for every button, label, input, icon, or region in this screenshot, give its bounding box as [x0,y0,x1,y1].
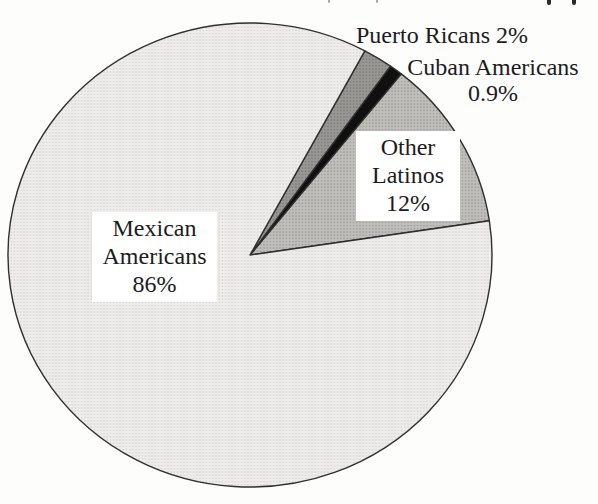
label-mexican-pct: 86% [98,270,211,298]
label-other-latinos: Other Latinos 12% [356,131,460,221]
label-mexican-americans: Mexican Americans 86% [92,212,217,302]
label-mexican-line1: Mexican [98,214,211,242]
label-other-line2: Latinos [362,161,454,189]
label-cuban-line1: Cuban Americans [404,54,582,80]
label-puerto-text: Puerto Ricans 2% [356,22,528,48]
label-cuban-pct: 0.9% [404,80,582,106]
label-other-pct: 12% [362,189,454,217]
label-cuban-americans: Cuban Americans 0.9% [404,54,582,106]
label-puerto-ricans: Puerto Ricans 2% [356,22,528,49]
label-other-line1: Other [362,133,454,161]
label-mexican-line2: Americans [98,242,211,270]
pie-chart-figure: Mexican Americans 86% Other Latinos 12% … [0,0,598,504]
